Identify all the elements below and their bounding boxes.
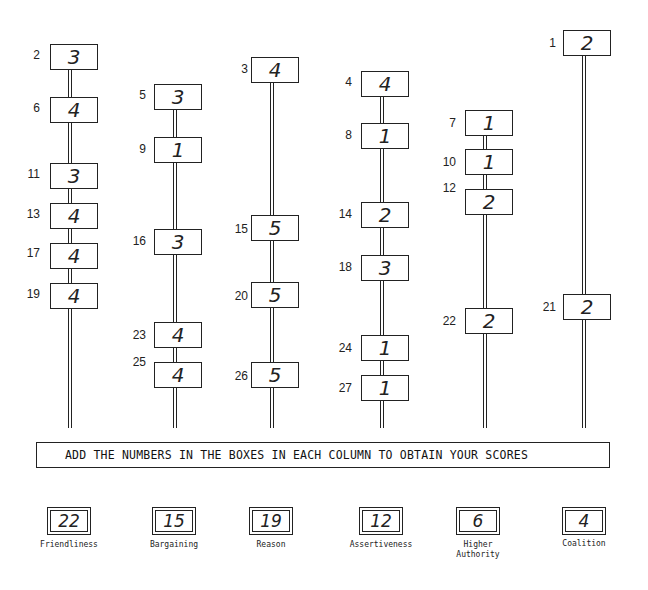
- answer-box[interactable]: 5: [251, 362, 299, 388]
- answer-value: 5: [269, 285, 282, 305]
- answer-box[interactable]: 4: [50, 97, 98, 123]
- score-box-bargaining[interactable]: 15: [152, 507, 196, 535]
- question-number: 19: [18, 287, 40, 301]
- answer-box[interactable]: 1: [465, 149, 513, 175]
- answer-box[interactable]: 4: [50, 203, 98, 229]
- answer-box[interactable]: 5: [251, 282, 299, 308]
- answer-value: 3: [68, 47, 81, 67]
- answer-box[interactable]: 4: [50, 243, 98, 269]
- answer-box[interactable]: 4: [50, 283, 98, 309]
- answer-box[interactable]: 3: [154, 229, 202, 255]
- answer-box[interactable]: 3: [361, 255, 409, 281]
- instruction-banner: ADD THE NUMBERS IN THE BOXES IN EACH COL…: [36, 442, 610, 468]
- answer-box[interactable]: 2: [465, 189, 513, 215]
- answer-value: 1: [379, 126, 392, 146]
- question-number: 10: [434, 155, 456, 169]
- question-number: 17: [18, 246, 40, 260]
- score-label-line1: Higher: [433, 540, 523, 550]
- question-number: 1: [534, 36, 556, 50]
- answer-box[interactable]: 1: [361, 123, 409, 149]
- answer-box[interactable]: 4: [361, 71, 409, 97]
- score-box-coalition[interactable]: 4: [562, 507, 606, 535]
- question-number: 11: [18, 167, 40, 181]
- answer-value: 5: [269, 218, 282, 238]
- answer-value: 1: [379, 378, 392, 398]
- answer-value: 4: [172, 365, 185, 385]
- answer-value: 2: [379, 205, 392, 225]
- question-number: 2: [18, 48, 40, 62]
- score-label-reason: Reason: [226, 540, 316, 550]
- question-number: 22: [434, 314, 456, 328]
- answer-box[interactable]: 3: [50, 163, 98, 189]
- answer-value: 5: [269, 365, 282, 385]
- answer-box[interactable]: 2: [563, 30, 611, 56]
- answer-value: 3: [379, 258, 392, 278]
- question-number: 23: [124, 328, 146, 342]
- answer-value: 2: [581, 33, 594, 53]
- score-label-line2: Authority: [433, 550, 523, 560]
- question-number: 21: [534, 300, 556, 314]
- score-value: 19: [260, 513, 282, 530]
- answer-value: 4: [269, 60, 282, 80]
- question-number: 14: [330, 207, 352, 221]
- question-number: 5: [124, 88, 146, 102]
- question-number: 18: [330, 260, 352, 274]
- answer-box[interactable]: 4: [154, 362, 202, 388]
- question-number: 26: [226, 369, 248, 383]
- answer-box[interactable]: 2: [465, 308, 513, 334]
- score-label-bargaining: Bargaining: [129, 540, 219, 550]
- score-label-friendliness: Friendliness: [24, 540, 114, 550]
- score-value: 15: [163, 513, 185, 530]
- answer-value: 2: [483, 311, 496, 331]
- question-number: 3: [226, 62, 248, 76]
- score-value: 12: [370, 513, 392, 530]
- answer-value: 3: [68, 166, 81, 186]
- question-number: 9: [124, 142, 146, 156]
- answer-box[interactable]: 5: [251, 215, 299, 241]
- answer-box[interactable]: 4: [154, 322, 202, 348]
- answer-box[interactable]: 3: [154, 84, 202, 110]
- answer-box[interactable]: 3: [50, 44, 98, 70]
- question-number: 13: [18, 207, 40, 221]
- answer-value: 3: [172, 232, 185, 252]
- answer-value: 4: [68, 206, 81, 226]
- question-number: 20: [226, 289, 248, 303]
- score-box-higher-authority[interactable]: 6: [456, 507, 500, 535]
- score-label-higher-authority: Higher Authority: [433, 540, 523, 560]
- answer-box[interactable]: 1: [154, 137, 202, 163]
- answer-value: 2: [483, 192, 496, 212]
- answer-value: 1: [379, 338, 392, 358]
- answer-value: 1: [172, 140, 185, 160]
- score-value: 4: [579, 513, 590, 530]
- question-number: 12: [434, 181, 456, 195]
- answer-value: 1: [483, 152, 496, 172]
- question-number: 27: [330, 381, 352, 395]
- answer-value: 3: [172, 87, 185, 107]
- answer-box[interactable]: 1: [361, 335, 409, 361]
- question-number: 4: [330, 75, 352, 89]
- column-rail-coalition: [582, 42, 586, 428]
- answer-value: 4: [68, 246, 81, 266]
- score-value: 6: [473, 513, 484, 530]
- score-value: 22: [58, 513, 80, 530]
- score-box-friendliness[interactable]: 22: [47, 507, 91, 535]
- question-number: 25: [124, 355, 146, 369]
- answer-box[interactable]: 2: [563, 294, 611, 320]
- question-number: 15: [226, 222, 248, 236]
- question-number: 8: [330, 128, 352, 142]
- question-number: 7: [434, 116, 456, 130]
- answer-value: 4: [379, 74, 392, 94]
- question-number: 24: [330, 341, 352, 355]
- answer-box[interactable]: 2: [361, 202, 409, 228]
- question-number: 6: [18, 101, 40, 115]
- question-number: 16: [124, 234, 146, 248]
- answer-box[interactable]: 4: [251, 57, 299, 83]
- score-label-coalition: Coalition: [539, 539, 629, 549]
- score-box-assertiveness[interactable]: 12: [359, 507, 403, 535]
- score-label-assertiveness: Assertiveness: [336, 540, 426, 550]
- answer-box[interactable]: 1: [465, 110, 513, 136]
- answer-value: 2: [581, 297, 594, 317]
- answer-box[interactable]: 1: [361, 375, 409, 401]
- score-box-reason[interactable]: 19: [249, 507, 293, 535]
- answer-value: 4: [172, 325, 185, 345]
